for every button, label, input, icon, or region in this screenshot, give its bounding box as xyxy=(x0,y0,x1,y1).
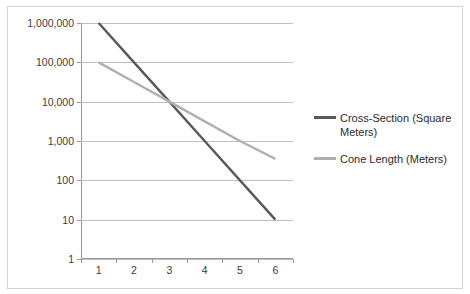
legend-entry[interactable]: Cross-Section (Square Meters) xyxy=(314,111,456,139)
x-axis-label: 2 xyxy=(131,264,137,276)
legend-entry[interactable]: Cone Length (Meters) xyxy=(314,152,456,166)
y-axis-label: 100 xyxy=(56,174,74,186)
y-axis-label: 1 xyxy=(68,253,74,265)
x-axis-tick xyxy=(293,259,294,263)
x-axis-tick xyxy=(152,259,153,263)
legend-swatch-icon xyxy=(314,116,336,119)
chart-container: 1101001,00010,000100,0001,000,000 123456… xyxy=(7,6,463,289)
chart-legend: Cross-Section (Square Meters)Cone Length… xyxy=(314,111,456,179)
series-line xyxy=(99,23,276,220)
x-axis-label: 4 xyxy=(202,264,208,276)
legend-label: Cross-Section (Square Meters) xyxy=(340,111,456,139)
legend-swatch-icon xyxy=(314,157,336,160)
x-axis-label: 1 xyxy=(96,264,102,276)
legend-label: Cone Length (Meters) xyxy=(340,152,447,166)
y-axis-label: 100,000 xyxy=(36,56,74,68)
x-axis-tick xyxy=(81,259,82,263)
x-axis-tick xyxy=(222,259,223,263)
y-axis-label: 1,000 xyxy=(48,135,74,147)
y-axis-label: 10,000 xyxy=(42,96,74,108)
x-axis-tick xyxy=(258,259,259,263)
x-axis-tick xyxy=(187,259,188,263)
series-line xyxy=(99,62,276,159)
x-axis-tick xyxy=(116,259,117,263)
x-axis-label: 3 xyxy=(166,264,172,276)
plot-area: 1101001,00010,000100,0001,000,000 123456 xyxy=(81,23,293,259)
series-lines xyxy=(81,23,293,259)
y-axis-label: 10 xyxy=(62,214,74,226)
y-axis-label: 1,000,000 xyxy=(27,17,74,29)
x-axis-label: 6 xyxy=(272,264,278,276)
x-axis-label: 5 xyxy=(237,264,243,276)
